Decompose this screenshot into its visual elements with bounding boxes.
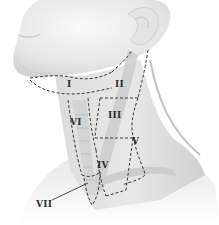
label-level-v: V: [132, 137, 139, 146]
label-level-vii: VII: [36, 200, 52, 209]
label-level-vi: VI: [70, 118, 82, 127]
label-level-iv: IV: [97, 161, 109, 170]
label-level-iii: III: [108, 111, 122, 120]
label-level-i: I: [67, 80, 72, 89]
label-level-ii: II: [115, 80, 124, 89]
neck-lymph-node-diagram: I II III IV V VI VII: [0, 0, 219, 225]
